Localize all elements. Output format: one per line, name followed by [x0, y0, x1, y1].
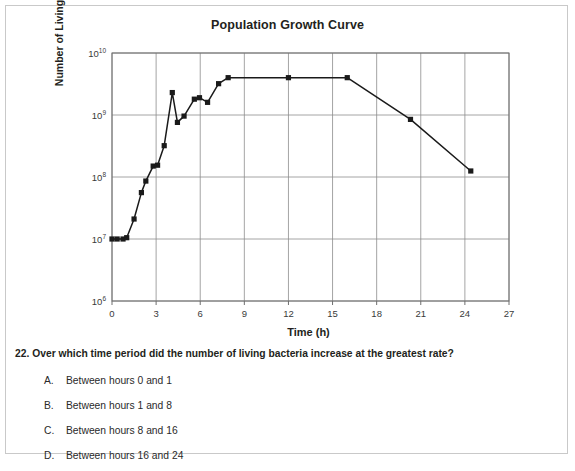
x-tick-label: 6 — [180, 308, 220, 319]
x-tick-label: 27 — [489, 308, 529, 319]
x-tick-label: 15 — [313, 308, 353, 319]
y-tick-label: 107 — [68, 233, 106, 245]
data-point-marker — [286, 75, 291, 80]
x-tick-label: 24 — [445, 308, 485, 319]
content-panel: Population Growth Curve Number of Living… — [5, 5, 568, 454]
answer-option-b[interactable]: B.Between hours 1 and 8 — [44, 400, 172, 411]
x-tick-label: 21 — [401, 308, 441, 319]
option-letter: A. — [44, 375, 66, 386]
chart-x-tickmarks — [112, 301, 509, 305]
data-point-marker — [226, 75, 231, 80]
x-tick-label: 18 — [357, 308, 397, 319]
data-point-marker — [143, 178, 148, 183]
y-tick-label: 108 — [68, 171, 106, 183]
data-point-marker — [408, 117, 413, 122]
y-tick-label: 106 — [68, 295, 106, 307]
data-point-marker — [131, 216, 136, 221]
question-text: 22. Over which time period did the numbe… — [15, 348, 565, 359]
data-point-marker — [115, 236, 120, 241]
data-point-markers — [109, 75, 473, 242]
option-text: Between hours 16 and 24 — [66, 450, 183, 461]
option-letter: B. — [44, 400, 66, 411]
data-point-marker — [175, 120, 180, 125]
option-letter: D. — [44, 450, 66, 461]
x-tick-label: 3 — [136, 308, 176, 319]
option-text: Between hours 1 and 8 — [66, 400, 172, 411]
x-tick-label: 9 — [224, 308, 264, 319]
data-point-marker — [345, 75, 350, 80]
data-point-marker — [170, 90, 175, 95]
answer-option-d[interactable]: D.Between hours 16 and 24 — [44, 450, 183, 461]
answer-option-c[interactable]: C.Between hours 8 and 16 — [44, 425, 178, 436]
data-point-marker — [162, 143, 167, 148]
data-point-marker — [109, 236, 114, 241]
data-line-living-cells — [112, 78, 471, 239]
data-point-marker — [155, 163, 160, 168]
data-point-marker — [216, 81, 221, 86]
data-point-marker — [181, 114, 186, 119]
option-letter: C. — [44, 425, 66, 436]
y-tick-label: 109 — [68, 109, 106, 121]
data-point-marker — [139, 190, 144, 195]
x-tick-label: 12 — [268, 308, 308, 319]
data-point-marker — [192, 97, 197, 102]
data-point-marker — [468, 168, 473, 173]
worksheet-page: Population Growth Curve Number of Living… — [0, 0, 575, 471]
data-point-marker — [205, 100, 210, 105]
option-text: Between hours 0 and 1 — [66, 375, 172, 386]
y-tick-label: 1010 — [68, 47, 106, 59]
data-point-marker — [124, 235, 129, 240]
x-tick-label: 0 — [92, 308, 132, 319]
answer-option-a[interactable]: A.Between hours 0 and 1 — [44, 375, 172, 386]
option-text: Between hours 8 and 16 — [66, 425, 178, 436]
data-point-marker — [197, 95, 202, 100]
